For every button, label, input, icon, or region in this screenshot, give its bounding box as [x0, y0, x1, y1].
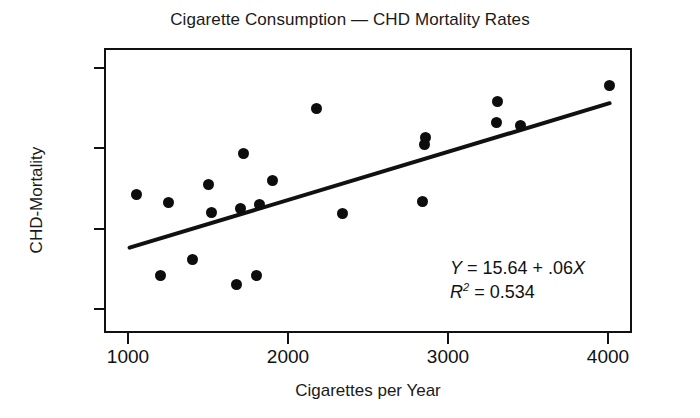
x-tick-mark	[287, 333, 289, 344]
r-squared-body: = 0.534	[469, 282, 535, 302]
scatter-point	[515, 120, 526, 131]
x-axis-label: Cigarettes per Year	[104, 381, 632, 401]
scatter-point	[187, 254, 198, 265]
r-squared-value: R2 = 0.534	[450, 280, 585, 304]
scatter-point	[337, 208, 348, 219]
scatter-point	[155, 270, 166, 281]
scatter-point	[235, 203, 246, 214]
page-title: Cigarette Consumption — CHD Mortality Ra…	[0, 10, 700, 30]
scatter-point	[491, 117, 502, 128]
equation-body: = 15.64 + .06	[462, 258, 573, 278]
chart-figure: Cigarette Consumption — CHD Mortality Ra…	[0, 0, 700, 418]
equation-x-symbol: X	[573, 258, 585, 278]
x-tick-label: 4000	[563, 346, 653, 368]
equation-y-symbol: Y	[450, 258, 462, 278]
scatter-point	[163, 197, 174, 208]
scatter-point	[417, 196, 428, 207]
scatter-point	[206, 207, 217, 218]
scatter-point	[604, 80, 615, 91]
regression-annotation: Y = 15.64 + .06X R2 = 0.534	[450, 257, 585, 304]
scatter-point	[254, 199, 265, 210]
scatter-point	[492, 96, 503, 107]
x-tick-mark	[127, 333, 129, 344]
scatter-point	[203, 179, 214, 190]
scatter-point	[251, 270, 262, 281]
x-tick-label: 3000	[403, 346, 493, 368]
x-tick-label: 1000	[83, 346, 173, 368]
scatter-point	[311, 103, 322, 114]
scatter-point	[267, 175, 278, 186]
scatter-point	[231, 279, 242, 290]
scatter-point	[131, 189, 142, 200]
x-tick-label: 2000	[243, 346, 333, 368]
regression-equation: Y = 15.64 + .06X	[450, 257, 585, 280]
x-tick-mark	[447, 333, 449, 344]
scatter-point	[238, 148, 249, 159]
x-tick-mark	[607, 333, 609, 344]
r-symbol: R	[450, 282, 463, 302]
y-axis-label: CHD-Mortality	[27, 100, 47, 300]
